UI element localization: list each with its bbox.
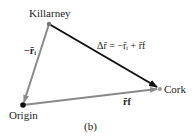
origin-point	[20, 102, 26, 108]
neg-ri-vector	[24, 24, 49, 102]
caption: (b)	[84, 121, 97, 132]
origin-label: Origin	[9, 110, 38, 121]
killarney-label: Killarney	[29, 8, 71, 19]
neg-ri-label: −r̄ᵢ	[24, 46, 36, 56]
cork-label: Cork	[164, 84, 186, 95]
delta-r-vector	[49, 24, 157, 87]
killarney-point	[47, 22, 51, 26]
rf-vector	[23, 89, 157, 105]
cork-point	[158, 87, 162, 91]
rf-label: r̄f	[123, 97, 131, 107]
delta-r-label: Δr̄ = −r̄ᵢ + r̄f	[97, 41, 145, 51]
